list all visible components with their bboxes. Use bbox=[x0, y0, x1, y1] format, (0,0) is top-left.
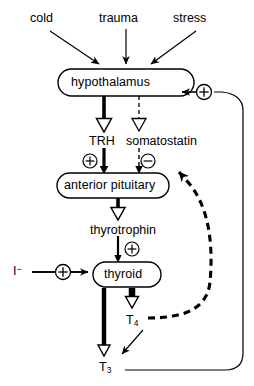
hormone-t3-subscript: 3 bbox=[107, 365, 112, 375]
sign-iodide-plus-shape bbox=[56, 265, 71, 280]
edge-thyroid-to-t4 bbox=[126, 288, 139, 308]
hormone-t3-symbol: T bbox=[99, 360, 107, 374]
diagram-canvas: cold trauma stress hypothalamus anterior… bbox=[0, 0, 254, 386]
sign-feedback-plus-shape bbox=[197, 85, 212, 100]
hormone-label-t4: T4 bbox=[126, 313, 138, 328]
substrate-label-iodide: I− bbox=[13, 264, 22, 278]
edge-hypothalamus-to-trh bbox=[97, 96, 112, 132]
sign-somatostatin-minus-shape bbox=[141, 154, 155, 168]
stimulus-label-cold: cold bbox=[30, 11, 53, 25]
hormone-label-t3: T3 bbox=[99, 360, 111, 375]
edge-hypothalamus-to-somatostatin bbox=[132, 96, 146, 131]
mediator-label-trh: TRH bbox=[89, 134, 115, 148]
mediator-label-thyrotrophin: thyrotrophin bbox=[90, 223, 156, 237]
edge-trh-to-anterior-pituitary bbox=[100, 148, 109, 174]
edge-thyrotrophin-to-thyroid bbox=[114, 236, 121, 263]
sign-trh-plus-shape bbox=[83, 154, 97, 168]
node-label-thyroid: thyroid bbox=[104, 267, 142, 281]
edge-t4-to-t3 bbox=[122, 330, 143, 354]
stimulus-label-stress: stress bbox=[173, 11, 206, 25]
edge-anterior-pituitary-to-thyrotrophin bbox=[111, 198, 125, 220]
stimulus-label-trauma: trauma bbox=[99, 11, 138, 25]
node-label-anterior-pituitary: anterior pituitary bbox=[64, 178, 155, 192]
mediator-label-somatostatin: somatostatin bbox=[126, 134, 197, 148]
edge-thyroid-to-t3 bbox=[98, 288, 110, 356]
hormone-t4-symbol: T bbox=[126, 313, 134, 327]
edge-stress-to-hypothalamus bbox=[151, 31, 196, 64]
sign-thyrotrophin-plus-shape bbox=[125, 242, 139, 256]
node-label-hypothalamus: hypothalamus bbox=[71, 75, 150, 89]
edge-cold-to-hypothalamus bbox=[50, 31, 99, 64]
substrate-iodide-superscript: − bbox=[16, 264, 21, 274]
diagram-vector-layer bbox=[0, 0, 254, 386]
hormone-t4-subscript: 4 bbox=[134, 318, 139, 328]
